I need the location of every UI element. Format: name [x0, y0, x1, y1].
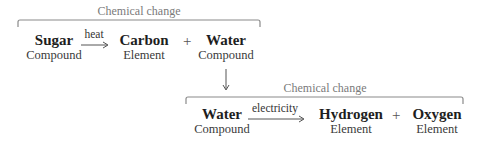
species-type: Compound: [198, 49, 254, 62]
species-type: Element: [319, 123, 383, 136]
species-type: Element: [119, 49, 168, 62]
plus-sign: +: [183, 33, 191, 50]
species-name: Oxygen: [412, 107, 461, 123]
species-name: Water: [198, 33, 254, 49]
species-name: Carbon: [119, 33, 168, 49]
arrow-electricity: [248, 116, 304, 122]
species-name: Water: [194, 107, 250, 123]
arrow-heat: [81, 42, 108, 48]
species-type: Compound: [26, 49, 82, 62]
species-type: Compound: [194, 123, 250, 136]
species-sugar: Sugar Compound: [26, 33, 82, 62]
species-oxygen: Oxygen Element: [412, 107, 461, 136]
condition-electricity: electricity: [252, 102, 298, 114]
plus-sign: +: [392, 107, 400, 124]
species-name: Hydrogen: [319, 107, 383, 123]
arrow-down: [223, 69, 229, 90]
condition-heat: heat: [84, 28, 103, 40]
species-hydrogen: Hydrogen Element: [319, 107, 383, 136]
bracket-label-reaction1: Chemical change: [98, 4, 181, 19]
species-water-reactant: Water Compound: [194, 107, 250, 136]
bracket-label-reaction2: Chemical change: [284, 81, 367, 96]
species-water-product: Water Compound: [198, 33, 254, 62]
species-name: Sugar: [26, 33, 82, 49]
species-carbon: Carbon Element: [119, 33, 168, 62]
bracket-reaction2: [186, 97, 463, 104]
bracket-reaction1: [18, 20, 260, 27]
species-type: Element: [412, 123, 461, 136]
